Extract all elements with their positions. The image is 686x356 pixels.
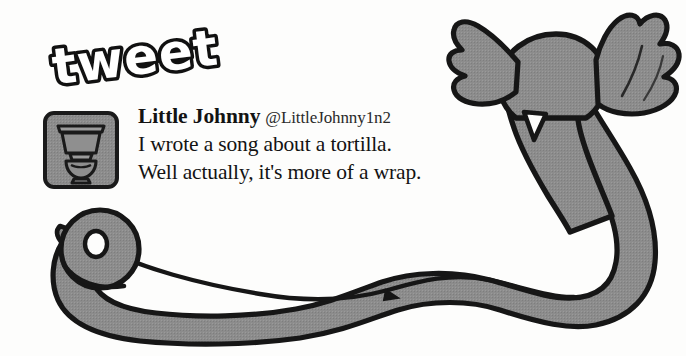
- tweet-text-line-1: I wrote a song about a tortilla.: [138, 130, 538, 158]
- display-name[interactable]: Little Johnny: [138, 104, 260, 128]
- tweet-cartoon-page: tweet Little J: [0, 0, 686, 356]
- tweet-headline: Little Johnny@LittleJohnny1n2: [138, 106, 538, 128]
- tweet-logo-text: tweet: [49, 24, 222, 88]
- handle[interactable]: @LittleJohnny1n2: [265, 108, 391, 127]
- left-wing: [449, 22, 518, 104]
- right-wing: [596, 15, 679, 114]
- tweet-text-line-2: Well actually, it's more of a wrap.: [138, 158, 538, 186]
- tweet-logo: tweet: [46, 24, 266, 88]
- tweet-body: Little Johnny@LittleJohnny1n2 I wrote a …: [138, 106, 538, 186]
- avatar[interactable]: [42, 110, 120, 190]
- toilet-paper-roll: [61, 210, 139, 288]
